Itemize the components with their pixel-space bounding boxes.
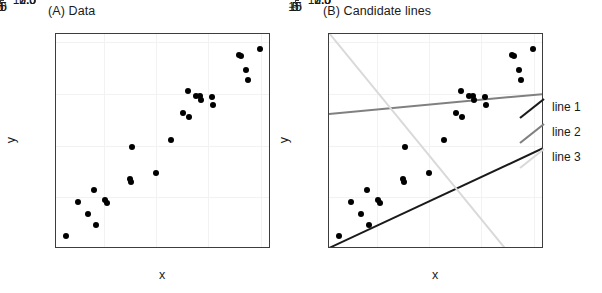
panel-b-candidate-lines: (B) Candidate lines x y 2.55.07.510.0−50…	[295, 0, 510, 293]
figure-root: (A) Data x y 2.55.07.510.0−50510 (B) Can…	[0, 0, 602, 293]
panel-b-plot-area	[328, 33, 543, 248]
data-point	[75, 199, 81, 205]
line-3-key-icon	[518, 146, 546, 171]
legend: line 1 line 2 line 3	[518, 96, 602, 171]
data-point	[209, 94, 215, 100]
candidate-line-2	[329, 93, 543, 115]
legend-item[interactable]: line 3	[518, 146, 602, 171]
data-point	[153, 170, 159, 176]
gridline-horizontal	[56, 42, 269, 43]
data-point	[518, 77, 524, 83]
data-point	[348, 199, 354, 205]
gridline-horizontal	[56, 197, 269, 198]
x-tick-label: 10	[288, 0, 301, 14]
data-point	[245, 77, 251, 83]
data-point	[458, 88, 464, 94]
legend-label-line-2: line 2	[552, 125, 581, 139]
data-point	[243, 67, 249, 73]
data-point	[366, 222, 372, 228]
gridline-vertical	[377, 34, 378, 247]
data-point	[185, 88, 191, 94]
data-point	[128, 179, 134, 185]
data-point	[186, 114, 192, 120]
data-point	[441, 137, 447, 143]
data-point	[168, 137, 174, 143]
legend-label-line-3: line 3	[552, 150, 581, 164]
line-1-key-icon	[518, 96, 546, 121]
data-point	[511, 53, 517, 59]
panel-b-x-axis-title: x	[432, 268, 438, 282]
data-point	[426, 170, 432, 176]
data-point	[93, 222, 99, 228]
data-point	[364, 187, 370, 193]
line-2-key-icon	[518, 121, 546, 146]
data-point	[85, 211, 91, 217]
gridline-vertical	[104, 34, 105, 247]
gridline-horizontal	[56, 94, 269, 95]
panel-a-data: (A) Data x y 2.55.07.510.0−50510	[0, 0, 295, 293]
data-point	[358, 211, 364, 217]
panel-b-y-axis-title: y	[277, 137, 291, 143]
data-point	[471, 97, 477, 103]
gridline-vertical	[261, 34, 262, 247]
data-point	[402, 144, 408, 150]
data-point	[210, 102, 216, 108]
data-point	[459, 114, 465, 120]
gridline-vertical	[208, 34, 209, 247]
data-point	[91, 187, 97, 193]
data-point	[198, 97, 204, 103]
gridline-horizontal	[329, 42, 542, 43]
x-tick-label: 10	[0, 0, 7, 14]
data-point	[483, 102, 489, 108]
panel-b-title: (B) Candidate lines	[323, 4, 431, 18]
data-point	[238, 53, 244, 59]
gridline-horizontal	[329, 146, 542, 147]
panel-a-title: (A) Data	[48, 4, 95, 18]
legend-item[interactable]: line 1	[518, 96, 602, 121]
data-point	[377, 200, 383, 206]
gridline-vertical	[429, 34, 430, 247]
data-point	[482, 94, 488, 100]
gridline-vertical	[481, 34, 482, 247]
data-point	[530, 46, 536, 52]
data-point	[336, 233, 342, 239]
panel-a-x-axis-title: x	[159, 268, 165, 282]
legend-item[interactable]: line 2	[518, 121, 602, 146]
data-point	[516, 67, 522, 73]
data-point	[104, 200, 110, 206]
gridline-horizontal	[56, 146, 269, 147]
panel-a-y-axis-title: y	[4, 137, 18, 143]
data-point	[129, 144, 135, 150]
data-point	[401, 179, 407, 185]
gridline-horizontal	[329, 94, 542, 95]
data-point	[257, 46, 263, 52]
gridline-vertical	[156, 34, 157, 247]
legend-label-line-1: line 1	[552, 100, 581, 114]
data-point	[63, 233, 69, 239]
panel-a-plot-area	[55, 33, 270, 248]
